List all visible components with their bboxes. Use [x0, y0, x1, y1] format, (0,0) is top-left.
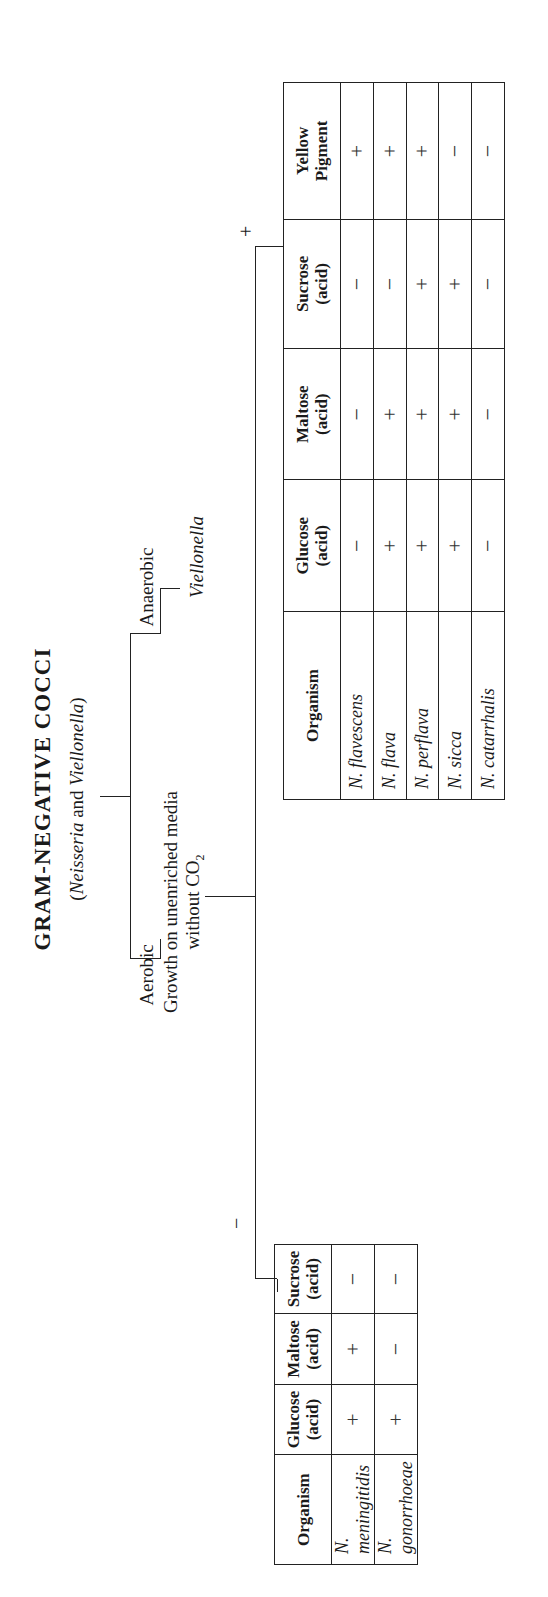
organism-cell: N. meningitidis: [332, 1455, 375, 1565]
positive-sign: +: [236, 226, 256, 237]
table-row: N. meningitidis + + −: [332, 1244, 375, 1564]
header-maltose: Maltose(acid): [275, 1314, 332, 1385]
organism-cell: N. perflava: [406, 612, 439, 800]
header-text: Maltose: [293, 355, 312, 473]
glucose-cell: −: [341, 480, 374, 612]
header-text: Sucrose: [293, 226, 312, 342]
header-text: Yellow: [293, 89, 312, 213]
growth-test-line2: without CO2: [182, 747, 211, 1057]
header-organism: Organism: [284, 612, 341, 800]
maltose-cell: −: [341, 349, 374, 480]
aerobic-label: Aerobic: [136, 944, 158, 1005]
sucrose-cell: −: [472, 219, 505, 348]
organism-cell: N. flavescens: [341, 612, 374, 800]
page-title: GRAM-NEGATIVE COCCI: [30, 599, 56, 999]
table-row: N. sicca + + + −: [439, 83, 472, 800]
maltose-cell: −: [375, 1314, 418, 1385]
growth-test-line1: Growth on unenriched media: [160, 747, 182, 1057]
header-subtext: (acid): [312, 226, 331, 342]
organism-cell: N. flava: [373, 612, 406, 800]
header-text: Maltose: [284, 1320, 303, 1378]
pigment-cell: +: [341, 83, 374, 220]
header-subtext: (acid): [303, 1320, 322, 1378]
header-glucose: Glucose(acid): [275, 1384, 332, 1455]
header-subtext: (acid): [312, 355, 331, 473]
pigment-cell: −: [472, 83, 505, 220]
sucrose-cell: −: [341, 219, 374, 348]
root-split-line: [130, 634, 131, 959]
table-row: N. gonorrhoeae + − −: [375, 1244, 418, 1564]
subtitle-genus-neisseria: Neisseria: [66, 823, 87, 895]
sucrose-cell: +: [439, 219, 472, 348]
growth-test-stem-line: [205, 896, 255, 897]
sucrose-cell: −: [332, 1244, 375, 1313]
maltose-cell: +: [373, 349, 406, 480]
page-subtitle: (Neisseria and Viellonella): [66, 599, 88, 999]
growth-test-label: Growth on unenriched media without CO2: [160, 747, 211, 1057]
glucose-cell: +: [406, 480, 439, 612]
glucose-cell: +: [375, 1384, 418, 1455]
header-subtext: Pigment: [312, 89, 331, 213]
maltose-cell: +: [332, 1314, 375, 1385]
growth-test-split-line: [255, 247, 256, 1279]
anaerobic-stem-line: [130, 633, 160, 634]
table-header-row: Organism Glucose(acid) Maltose(acid) Suc…: [275, 1244, 332, 1564]
header-text: Glucose: [284, 1391, 303, 1449]
maltose-cell: +: [439, 349, 472, 480]
glucose-cell: +: [439, 480, 472, 612]
glucose-cell: +: [332, 1384, 375, 1455]
table-row: N. flava + + − +: [373, 83, 406, 800]
sucrose-cell: −: [375, 1244, 418, 1313]
header-text: Organism: [294, 1473, 313, 1546]
growth-test-subscript: 2: [193, 854, 207, 860]
header-subtext: (acid): [303, 1391, 322, 1449]
organism-cell: N. gonorrhoeae: [375, 1455, 418, 1565]
anaerobic-label: Anaerobic: [136, 547, 158, 626]
header-glucose: Glucose(acid): [284, 480, 341, 612]
negative-growth-table: Organism Glucose(acid) Maltose(acid) Suc…: [274, 1244, 418, 1565]
table-header-row: Organism Glucose(acid) Maltose(acid) Suc…: [284, 83, 341, 800]
subtitle-and: and: [66, 786, 87, 823]
rotated-page: GRAM-NEGATIVE COCCI (Neisseria and Viell…: [0, 0, 548, 1597]
header-text: Organism: [303, 669, 322, 742]
sucrose-cell: −: [373, 219, 406, 348]
glucose-cell: +: [373, 480, 406, 612]
header-yellow-pigment: YellowPigment: [284, 83, 341, 220]
pigment-cell: +: [373, 83, 406, 220]
header-subtext: (acid): [303, 1251, 322, 1307]
subtitle-close: ): [66, 697, 87, 703]
organism-cell: N. sicca: [439, 612, 472, 800]
table-row: N. catarrhalis − − − −: [472, 83, 505, 800]
sucrose-cell: +: [406, 219, 439, 348]
maltose-cell: −: [472, 349, 505, 480]
maltose-cell: +: [406, 349, 439, 480]
subtitle-genus-viellonella: Viellonella: [66, 704, 87, 786]
root-stem-line: [100, 796, 130, 797]
growth-test-line2-text: without CO: [182, 860, 203, 949]
subtitle-open: (: [66, 894, 87, 900]
anaerobic-drop-line: [160, 589, 161, 634]
viellonella-result: Viellonella: [186, 516, 208, 598]
header-text: Glucose: [293, 486, 312, 605]
positive-branch-line: [255, 246, 283, 247]
pigment-cell: +: [406, 83, 439, 220]
table-row: N. flavescens − − − +: [341, 83, 374, 800]
table-row: N. perflava + + + +: [406, 83, 439, 800]
positive-growth-table: Organism Glucose(acid) Maltose(acid) Suc…: [283, 82, 505, 800]
organism-cell: N. catarrhalis: [472, 612, 505, 800]
header-sucrose: Sucrose(acid): [275, 1244, 332, 1313]
anaerobic-result-line: [160, 588, 180, 589]
negative-sign: −: [226, 1218, 246, 1229]
header-sucrose: Sucrose(acid): [284, 219, 341, 348]
header-text: Sucrose: [284, 1251, 303, 1307]
pigment-cell: −: [439, 83, 472, 220]
glucose-cell: −: [472, 480, 505, 612]
header-maltose: Maltose(acid): [284, 349, 341, 480]
header-subtext: (acid): [312, 486, 331, 605]
header-organism: Organism: [275, 1455, 332, 1565]
